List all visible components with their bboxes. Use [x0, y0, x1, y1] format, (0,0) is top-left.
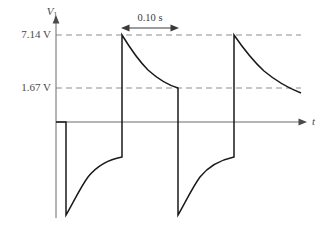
voltage-axis-label-subscript: 1 [53, 11, 57, 20]
period-span-label: 0.10 s [137, 12, 162, 23]
voltage-axis-label: V1 [47, 5, 58, 20]
time-axis-arrow-icon [299, 119, 308, 126]
waveform-figure: 0.10 s 7.14 V 1.67 V V1 t [0, 0, 326, 227]
time-axis-label: t [312, 115, 316, 127]
y-tick-label-low: 1.67 V [21, 81, 51, 93]
waveform-trace [56, 35, 301, 215]
period-span-arrow-right-icon [171, 25, 180, 32]
y-tick-label-high: 7.14 V [21, 28, 51, 40]
waveform-plot: 0.10 s 7.14 V 1.67 V V1 t [0, 0, 326, 227]
period-span-arrow-left-icon [121, 25, 130, 32]
